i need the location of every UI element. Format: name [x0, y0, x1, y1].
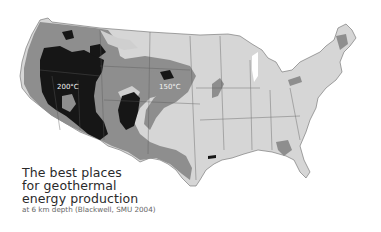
label-150c: 150°C [159, 83, 181, 91]
label-200c: 200°C [57, 83, 79, 91]
map-caption: The best places for geothermal energy pr… [22, 166, 156, 214]
caption-subtitle: at 6 km depth (Blackwell, SMU 2004) [22, 205, 156, 214]
caption-line-3: energy production [22, 192, 156, 205]
